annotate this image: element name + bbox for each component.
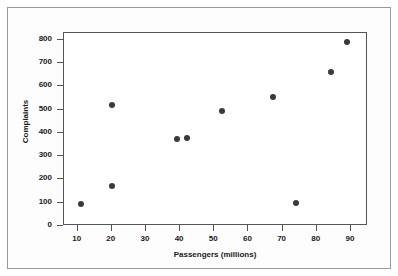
x-axis-tick — [179, 225, 180, 231]
y-axis-tick — [57, 202, 63, 203]
data-point — [184, 135, 190, 141]
data-point — [109, 102, 115, 108]
y-axis-tick — [57, 225, 63, 226]
x-axis-tick — [316, 225, 317, 231]
x-axis-title: Passengers (millions) — [63, 250, 367, 259]
y-axis-tick — [57, 155, 63, 156]
x-axis-tick-label: 30 — [130, 234, 160, 243]
x-axis-tick — [111, 225, 112, 231]
y-axis-tick — [57, 39, 63, 40]
x-axis-tick-label: 70 — [267, 234, 297, 243]
x-axis-tick — [247, 225, 248, 231]
y-axis-tick-label: 800 — [12, 35, 52, 43]
y-axis-title: Complaints — [21, 47, 30, 197]
y-axis-tick-label: 200 — [12, 174, 52, 182]
x-axis-tick — [213, 225, 214, 231]
y-axis-tick-label: 300 — [12, 151, 52, 159]
y-axis-tick-label: 100 — [12, 198, 52, 206]
x-axis-tick-label: 20 — [96, 234, 126, 243]
plot-area — [63, 32, 367, 225]
x-axis-tick-label: 60 — [232, 234, 262, 243]
x-axis-tick — [145, 225, 146, 231]
y-axis-tick — [57, 132, 63, 133]
y-axis-tick-label: 700 — [12, 58, 52, 66]
data-point — [109, 183, 115, 189]
y-axis-tick — [57, 109, 63, 110]
x-axis-tick — [282, 225, 283, 231]
x-axis-tick-label: 50 — [198, 234, 228, 243]
data-point — [174, 136, 180, 142]
scatter-plot-figure: 0100200300400500600700800102030405060708… — [0, 0, 398, 276]
data-point — [328, 69, 334, 75]
y-axis-tick — [57, 62, 63, 63]
x-axis-tick-label: 10 — [62, 234, 92, 243]
y-axis-tick-label: 600 — [12, 81, 52, 89]
x-axis-tick — [77, 225, 78, 231]
y-axis-tick — [57, 178, 63, 179]
x-axis-tick-label: 40 — [164, 234, 194, 243]
y-axis-tick-label: 500 — [12, 105, 52, 113]
x-axis-tick — [350, 225, 351, 231]
data-point — [219, 108, 225, 114]
y-axis-tick — [57, 85, 63, 86]
y-axis-tick-label: 400 — [12, 128, 52, 136]
y-axis-tick-label: 0 — [12, 221, 52, 229]
x-axis-tick-label: 90 — [335, 234, 365, 243]
data-point — [78, 201, 84, 207]
data-point — [293, 200, 299, 206]
x-axis-tick-label: 80 — [301, 234, 331, 243]
